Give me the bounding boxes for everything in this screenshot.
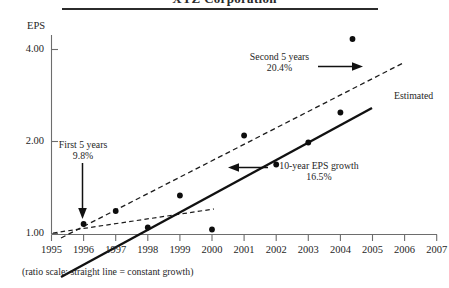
annotation-pointer-ten-year-growth: [228, 163, 268, 172]
x-tick-label: 2007: [417, 244, 449, 256]
data-point: [145, 225, 151, 231]
annotation-pointer-second-five-years: [318, 62, 363, 71]
annotation-first-five-years: First 5 years 9.8%: [37, 140, 129, 162]
x-axis-ticks: [52, 235, 437, 242]
annotation-first-five-years-title: First 5 years: [59, 139, 107, 150]
y-tick-label: 1.00: [14, 227, 44, 239]
data-point: [241, 133, 247, 139]
data-point: [350, 36, 356, 42]
figure-caption: (ratio scale: straight line = constant g…: [22, 267, 193, 278]
data-point: [305, 140, 311, 146]
annotation-ten-year-growth-value: 16.5%: [271, 172, 367, 183]
annotation-ten-year-growth: 10-year EPS growth 16.5%: [271, 161, 367, 183]
annotation-estimated-label: Estimated: [394, 91, 433, 102]
annotation-second-five-years: Second 5 years 20.4%: [243, 52, 316, 74]
annotation-second-five-years-title: Second 5 years: [250, 51, 309, 62]
annotation-ten-year-growth-title: 10-year EPS growth: [279, 160, 358, 171]
annotation-second-five-years-value: 20.4%: [243, 63, 316, 74]
data-point: [209, 227, 215, 233]
annotation-pointer-first-five-years: [78, 163, 87, 219]
annotation-first-five-years-value: 9.8%: [37, 151, 129, 162]
data-point: [113, 208, 119, 214]
eps-growth-figure: XYZ Corporation: [0, 0, 449, 288]
y-tick-label: 4.00: [14, 43, 44, 55]
data-point: [177, 193, 183, 199]
data-point: [338, 110, 344, 116]
data-point: [81, 221, 87, 227]
y-axis-label: EPS: [27, 20, 45, 32]
